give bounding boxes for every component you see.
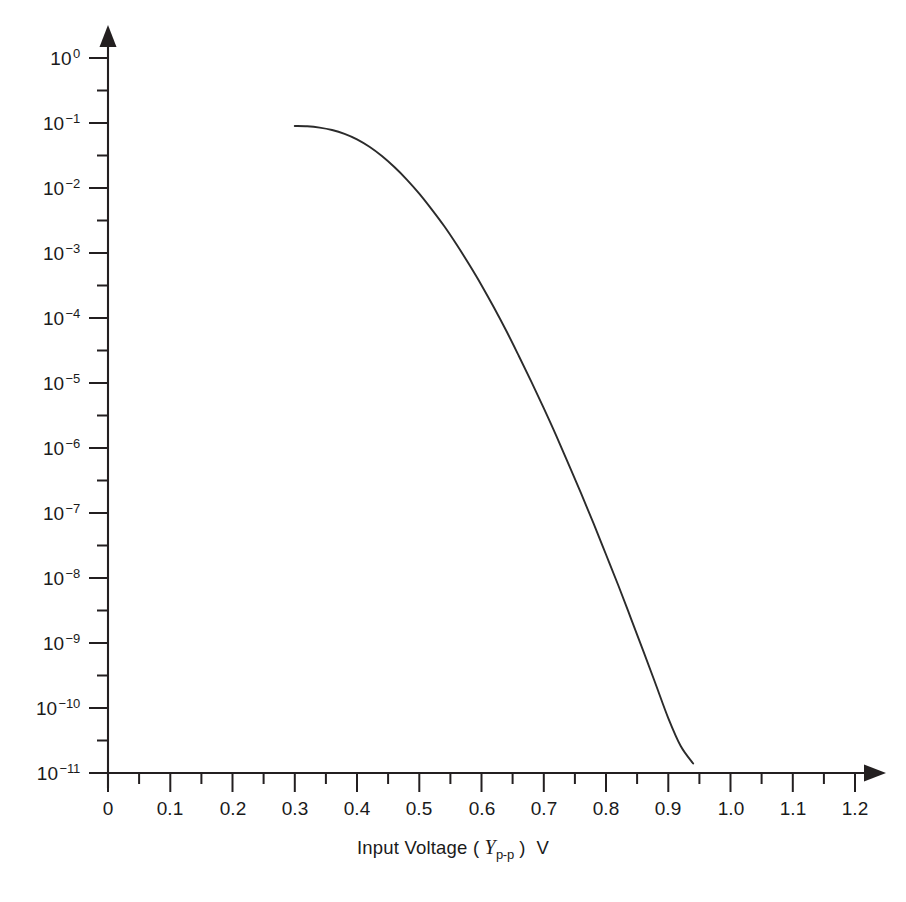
chart-figure: 100 10−1 10−2 10−3 10−4 10−5 10−6 10−7 1…	[0, 0, 906, 902]
x-tick-label: 1.1	[763, 799, 823, 818]
x-tick-label: 0.3	[265, 799, 325, 818]
x-tick-label: 0.9	[638, 799, 698, 818]
y-tick-label: 10−9	[0, 632, 80, 653]
data-curve-ber	[295, 126, 693, 764]
x-tick-label: 1.0	[701, 799, 761, 818]
x-tick-label: 0.5	[389, 799, 449, 818]
y-tick-label: 10−8	[0, 567, 80, 588]
x-axis-title-prefix: Input Voltage (	[357, 837, 485, 858]
x-tick-label: 0.6	[452, 799, 512, 818]
x-axis-title-unit: V	[537, 837, 550, 858]
x-axis-major-ticks	[108, 773, 855, 792]
y-tick-label: 10−7	[0, 502, 80, 523]
y-tick-label: 10−2	[0, 177, 80, 198]
y-tick-label: 10−5	[0, 372, 80, 393]
x-tick-label: 0.1	[140, 799, 200, 818]
x-tick-label: 0.2	[203, 799, 263, 818]
y-tick-label: 100	[0, 47, 80, 68]
x-tick-label: 0.7	[514, 799, 574, 818]
y-tick-label: 10−11	[0, 762, 80, 783]
y-tick-label: 10−10	[0, 697, 80, 718]
y-tick-label: 10−3	[0, 242, 80, 263]
x-tick-label: 0	[78, 799, 138, 818]
y-tick-label: 10−4	[0, 307, 80, 328]
y-axis-arrow-icon	[100, 25, 117, 47]
plot-canvas	[0, 0, 906, 902]
x-axis-title-subscript: p-p	[496, 847, 514, 862]
x-axis-title-variable: Y	[485, 836, 496, 858]
y-tick-label: 10−6	[0, 437, 80, 458]
x-tick-label: 0.4	[327, 799, 387, 818]
x-axis-title: Input Voltage ( Yp-p )V	[0, 836, 906, 862]
y-tick-label: 10−1	[0, 112, 80, 133]
x-axis-title-suffix: )	[514, 837, 526, 858]
x-axis-arrow-icon	[864, 765, 886, 782]
x-tick-label: 1.2	[825, 799, 885, 818]
x-tick-label: 0.8	[576, 799, 636, 818]
